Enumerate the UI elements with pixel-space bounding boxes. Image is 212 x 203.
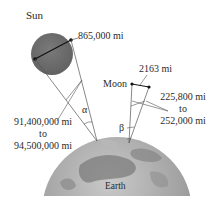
moon-distance-label: 225,800 mi to 252,000 mi [155, 92, 211, 126]
moon-distance-line2: to [155, 104, 211, 114]
sun-distance-label: 91,400,000 mi to 94,500,000 mi [4, 117, 82, 151]
moon-distance-line1: 225,800 mi [155, 92, 211, 102]
sun-disk [31, 33, 73, 75]
earth-label: Earth [105, 182, 126, 192]
sun-label: Sun [26, 10, 43, 21]
alpha-label: α [82, 105, 87, 115]
sun-distance-line3: 94,500,000 mi [4, 141, 82, 151]
sun-distance-line2: to [4, 129, 82, 139]
moon-distance-line3: 252,000 mi [155, 116, 211, 126]
sun-moon-earth-diagram: Sun 865,000 mi 91,400,000 mi to 94,500,0… [0, 0, 212, 203]
beta-label: β [119, 123, 124, 133]
moon-label: Moon [103, 79, 127, 89]
sun-distance-line1: 91,400,000 mi [4, 117, 82, 127]
moon-diameter-label: 2163 mi [139, 64, 172, 74]
sun-diameter-label: 865,000 mi [78, 31, 124, 41]
